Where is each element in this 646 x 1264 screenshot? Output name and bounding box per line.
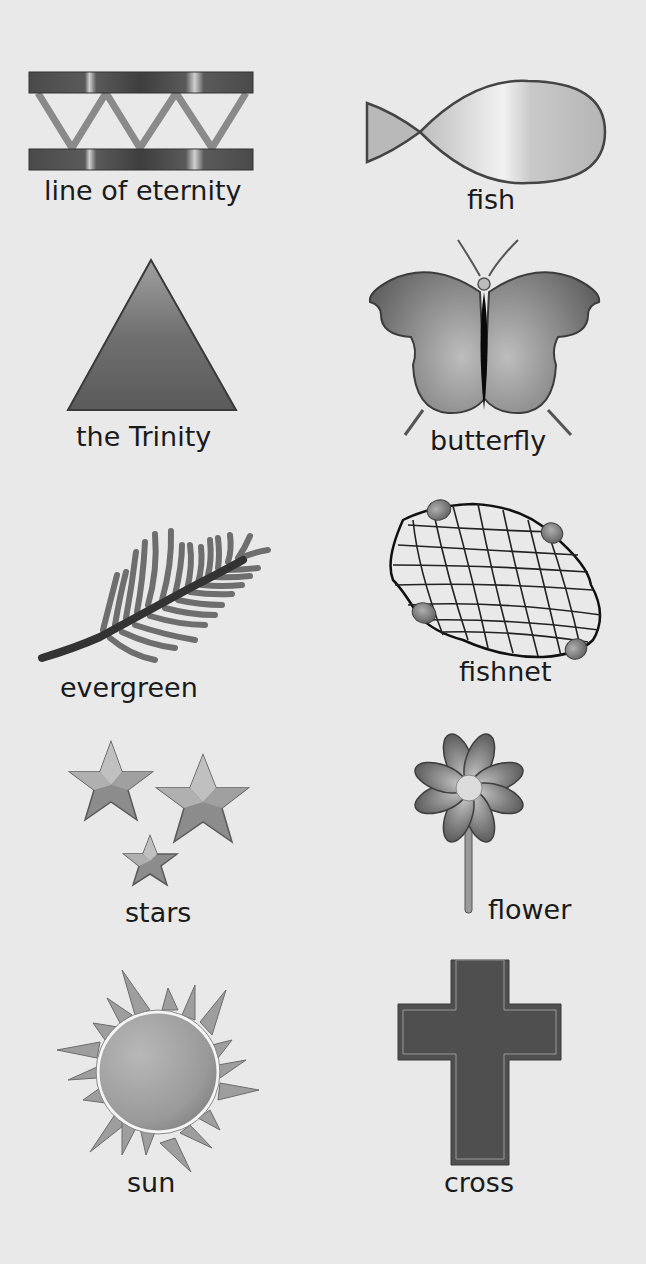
symbol-stars: stars	[0, 730, 323, 950]
symbol-fishnet: fishnet	[323, 470, 646, 710]
symbol-label: line of eternity	[44, 176, 242, 206]
symbol-label: fishnet	[459, 657, 552, 687]
symbol-label: fish	[467, 185, 515, 215]
symbol-label: stars	[125, 898, 191, 928]
symbol-label: sun	[127, 1168, 175, 1198]
symbol-cross: cross	[323, 960, 646, 1264]
symbol-evergreen: evergreen	[0, 470, 323, 710]
cross-icon	[323, 960, 646, 1264]
symbol-sun: sun	[0, 960, 323, 1264]
sun-icon	[0, 960, 323, 1264]
symbol-label: butterfly	[430, 426, 546, 456]
symbol-label: flower	[488, 895, 571, 925]
symbol-label: evergreen	[60, 673, 198, 703]
symbol-flower: flower	[323, 730, 646, 950]
symbol-label: the Trinity	[76, 422, 211, 452]
symbol-label: cross	[444, 1168, 514, 1198]
symbol-fish: fish	[323, 0, 646, 220]
flower-icon	[323, 730, 646, 950]
symbol-the-trinity: the Trinity	[0, 230, 323, 470]
symbol-butterfly: butterfly	[323, 230, 646, 470]
symbol-line-of-eternity: line of eternity	[0, 0, 323, 220]
